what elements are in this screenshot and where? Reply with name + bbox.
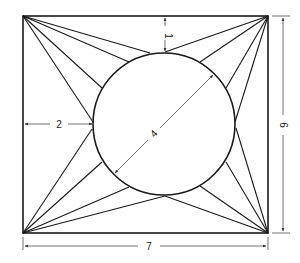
height-dimension: 6	[272, 16, 290, 233]
top-offset-label: 1	[163, 33, 174, 39]
geometry-diagram: 4 2 1 6 7	[0, 0, 300, 263]
width-label: 7	[146, 241, 152, 252]
width-dimension: 7	[23, 237, 268, 252]
left-offset-label: 2	[56, 119, 62, 130]
height-label: 6	[278, 122, 289, 128]
left-offset-dimension: 2	[25, 119, 92, 130]
top-offset-dimension: 1	[163, 18, 174, 51]
